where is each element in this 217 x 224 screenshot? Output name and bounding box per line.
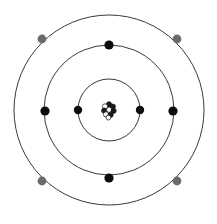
electron-outer-bottom-left — [38, 177, 47, 186]
bohr-atom-diagram — [0, 0, 217, 224]
atom-canvas — [0, 0, 217, 224]
electron-middle-left — [40, 106, 49, 115]
nucleon-9 — [106, 115, 111, 120]
electron-middle-bottom — [104, 173, 113, 182]
electron-inner-right — [136, 106, 144, 114]
electron-middle-right — [168, 106, 177, 115]
electron-inner-left — [74, 106, 82, 114]
electron-outer-top-right — [173, 35, 182, 44]
electron-outer-top-left — [38, 35, 47, 44]
electron-outer-bottom-right — [173, 177, 182, 186]
electron-middle-top — [104, 40, 113, 49]
